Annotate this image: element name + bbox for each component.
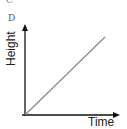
- data-line: [25, 37, 105, 115]
- x-axis-label: Time: [88, 115, 114, 129]
- y-axis-arrow-icon: [22, 24, 28, 31]
- y-axis-label: Height: [4, 31, 18, 66]
- chart-plot: [0, 0, 127, 129]
